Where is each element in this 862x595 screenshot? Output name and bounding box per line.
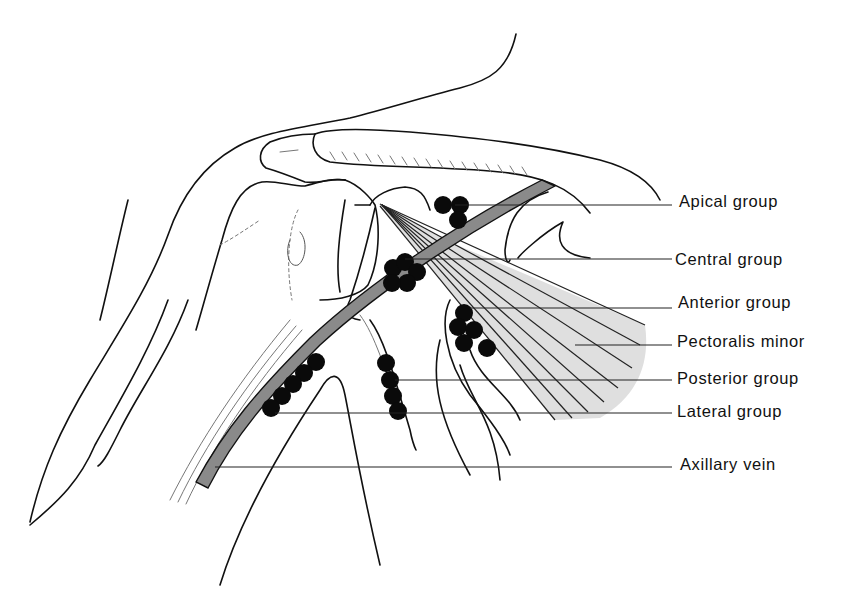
label-anterior-group: Anterior group (678, 294, 791, 311)
label-posterior-group: Posterior group (677, 370, 799, 387)
posterior-nodes (377, 354, 407, 420)
acromion (260, 134, 345, 182)
arm-bulge (220, 376, 380, 585)
rib-curve-upper (518, 222, 590, 258)
clavicle (313, 129, 660, 213)
label-lateral-group: Lateral group (677, 403, 782, 420)
label-axillary-vein: Axillary vein (680, 456, 776, 473)
apical-nodes (434, 196, 469, 229)
coracoid (370, 187, 430, 210)
humeral-head (196, 179, 345, 330)
arm-contour-2 (98, 300, 188, 466)
label-central-group: Central group (675, 251, 783, 268)
humeral-head-right (320, 180, 378, 300)
arm-contour-inner (100, 200, 128, 320)
glenoid (338, 200, 345, 292)
arm-contour-left (30, 300, 168, 525)
chest-curve-4 (460, 365, 500, 480)
label-pectoralis-minor: Pectoralis minor (677, 333, 805, 350)
label-apical-group: Apical group (679, 193, 778, 210)
pectoralis-minor (378, 203, 646, 420)
chest-curve-2 (436, 340, 470, 475)
